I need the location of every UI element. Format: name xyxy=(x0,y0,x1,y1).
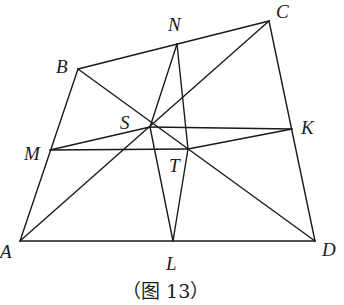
label-D: D xyxy=(321,239,336,260)
label-S: S xyxy=(120,112,130,133)
label-L: L xyxy=(165,253,177,274)
label-M: M xyxy=(23,143,41,164)
segment-TK xyxy=(188,129,292,149)
label-N: N xyxy=(167,14,182,35)
label-B: B xyxy=(56,56,68,77)
label-A: A xyxy=(0,241,12,262)
segment-SK xyxy=(150,127,292,129)
geometry-figure: A B C D N L M K S T （图 13） xyxy=(0,0,344,305)
figure-canvas: A B C D N L M K S T （图 13） xyxy=(0,0,344,305)
segment-BD xyxy=(78,69,315,241)
segment-SL xyxy=(150,127,173,241)
point-labels: A B C D N L M K S T xyxy=(0,1,336,274)
segment-NT xyxy=(177,44,188,149)
label-K: K xyxy=(300,117,315,138)
label-T: T xyxy=(169,155,181,176)
segments xyxy=(20,21,315,241)
segment-MT xyxy=(50,149,188,150)
label-C: C xyxy=(276,1,289,22)
figure-caption: （图 13） xyxy=(122,280,209,302)
